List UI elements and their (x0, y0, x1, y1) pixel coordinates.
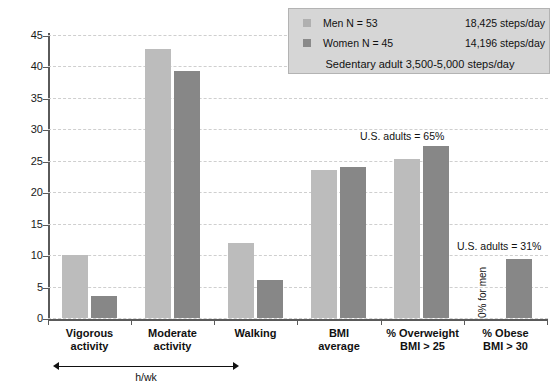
y-axis-tick-labels: 0 5 10 15 20 25 30 35 40 45 (0, 35, 43, 318)
x-tick-label-walking: Walking (214, 327, 297, 340)
bar-men (311, 170, 337, 318)
legend-item-women: Women N = 45 14,196 steps/day (289, 34, 551, 52)
bar-group (48, 35, 131, 318)
x-label-line-1: % Overweight (381, 327, 464, 340)
x-tick-label-percent-obese: % Obese BMI > 30 (464, 327, 547, 352)
x-label-line-2: activity (48, 340, 131, 353)
bar-group (131, 35, 214, 318)
legend-item-men: Men N = 53 18,425 steps/day (289, 14, 551, 32)
legend-swatch-women-icon (303, 39, 311, 47)
x-label-line-1: BMI (297, 327, 381, 340)
y-tick-label: 5 (3, 281, 43, 292)
x-tick-label-bmi-average: BMI average (297, 327, 381, 352)
bar-group (297, 35, 380, 318)
legend-value-men-steps: 18,425 steps/day (435, 17, 545, 29)
bar-group (380, 35, 463, 318)
x-label-line-1: % Obese (464, 327, 547, 340)
y-tick-label: 45 (3, 30, 43, 41)
y-tick-label: 10 (3, 250, 43, 261)
x-label-line-1: Vigorous (48, 327, 131, 340)
bar-women (340, 167, 366, 318)
bar-men (62, 255, 88, 318)
y-tick-label: 25 (3, 155, 43, 166)
y-tick-label: 15 (3, 218, 43, 229)
arrow-line (57, 366, 235, 367)
gridline (48, 318, 548, 319)
legend-swatch-men-icon (303, 19, 311, 27)
bar-women (174, 71, 200, 318)
arrow-head-right-icon (233, 362, 239, 370)
bar-women (91, 296, 117, 318)
y-tick-label: 35 (3, 92, 43, 103)
legend: Men N = 53 18,425 steps/day Women N = 45… (288, 8, 550, 74)
bar-women (423, 146, 449, 318)
bar-men (394, 159, 420, 318)
bar-group (214, 35, 297, 318)
y-tick-label: 40 (3, 61, 43, 72)
x-tick-label-moderate-activity: Moderate activity (131, 327, 214, 352)
legend-label-men: Men N = 53 (323, 17, 435, 29)
y-tick-label: 0 (3, 313, 43, 324)
annotation-us-adults-overweight: U.S. adults = 65% (360, 130, 444, 142)
arrow-head-left-icon (53, 362, 59, 370)
x-label-line-2: BMI > 30 (464, 340, 547, 353)
x-tick-label-percent-overweight: % Overweight BMI > 25 (381, 327, 464, 352)
bar-women (257, 280, 283, 318)
plot-area (48, 35, 548, 318)
bar-women (506, 259, 532, 318)
legend-label-women: Women N = 45 (323, 37, 435, 49)
x-axis-line (48, 319, 548, 321)
bar-men (228, 243, 254, 318)
x-axis-label-hwk: h/wk (53, 371, 239, 383)
bar-men (145, 49, 171, 318)
y-tick-label: 30 (3, 124, 43, 135)
bar-group (463, 35, 546, 318)
x-label-line-1: Walking (214, 327, 297, 340)
annotation-zero-percent-for-men: 0% for men (477, 267, 488, 318)
x-label-line-2: BMI > 25 (381, 340, 464, 353)
x-label-line-2: activity (131, 340, 214, 353)
bar-chart: 0 5 10 15 20 25 30 35 40 45 (0, 0, 559, 389)
legend-value-women-steps: 14,196 steps/day (435, 37, 545, 49)
y-tick-label: 20 (3, 187, 43, 198)
annotation-us-adults-obese: U.S. adults = 31% (457, 240, 541, 252)
legend-footer-sedentary-note: Sedentary adult 3,500-5,000 steps/day (289, 55, 551, 73)
x-tick-label-vigorous-activity: Vigorous activity (48, 327, 131, 352)
x-label-line-1: Moderate (131, 327, 214, 340)
x-label-line-2: average (297, 340, 381, 353)
